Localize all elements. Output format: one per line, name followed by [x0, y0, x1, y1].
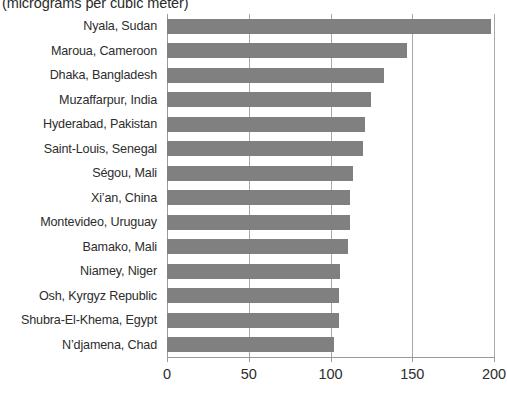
category-label: Dhaka, Bangladesh	[50, 68, 157, 82]
bar[interactable]	[167, 43, 407, 58]
category-label: Saint-Louis, Senegal	[44, 142, 157, 156]
category-label-row: Muzaffarpur, India	[0, 88, 162, 113]
bar[interactable]	[167, 92, 371, 107]
category-label: Montevideo, Uruguay	[40, 215, 157, 229]
category-label-row: Nyala, Sudan	[0, 14, 162, 39]
tick-label-100: 100	[318, 366, 342, 382]
bar-rows	[167, 14, 494, 357]
tick-mark-200	[494, 357, 495, 362]
category-label: Ségou, Mali	[92, 166, 157, 180]
tick-label-50: 50	[241, 366, 257, 382]
bar-row[interactable]	[167, 137, 494, 162]
tick-mark-100	[331, 357, 332, 362]
category-label: Maroua, Cameroon	[51, 44, 157, 58]
category-label-row: Shubra-El-Khema, Egypt	[0, 308, 162, 333]
bar[interactable]	[167, 288, 339, 303]
bar-row[interactable]	[167, 284, 494, 309]
bar-row[interactable]	[167, 161, 494, 186]
category-label-row: Osh, Kyrgyz Republic	[0, 284, 162, 309]
bar-row[interactable]	[167, 308, 494, 333]
bar-row[interactable]	[167, 88, 494, 113]
category-label-row: Bamako, Mali	[0, 235, 162, 260]
chart-page: (micrograms per cubic meter) Nyala, Suda…	[0, 0, 507, 401]
category-label-row: Montevideo, Uruguay	[0, 210, 162, 235]
tick-label-150: 150	[400, 366, 424, 382]
bar[interactable]	[167, 337, 334, 352]
bar[interactable]	[167, 19, 491, 34]
bar[interactable]	[167, 166, 353, 181]
chart-title: (micrograms per cubic meter)	[2, 0, 189, 11]
category-label: Nyala, Sudan	[83, 19, 157, 33]
category-label-row: Maroua, Cameroon	[0, 39, 162, 64]
bar-row[interactable]	[167, 39, 494, 64]
category-label-row: Ségou, Mali	[0, 161, 162, 186]
gridline-200	[494, 14, 495, 357]
category-label-row: Xi’an, China	[0, 186, 162, 211]
category-label: Hyderabad, Pakistan	[43, 117, 157, 131]
bar[interactable]	[167, 264, 340, 279]
category-label: Muzaffarpur, India	[59, 93, 157, 107]
category-label: N’djamena, Chad	[62, 338, 157, 352]
category-label-row: Saint-Louis, Senegal	[0, 137, 162, 162]
plot-area	[167, 14, 494, 357]
bar-row[interactable]	[167, 186, 494, 211]
bar-row[interactable]	[167, 63, 494, 88]
bar-row[interactable]	[167, 333, 494, 358]
bar[interactable]	[167, 215, 350, 230]
tick-label-0: 0	[163, 366, 171, 382]
category-label: Osh, Kyrgyz Republic	[39, 289, 157, 303]
bar[interactable]	[167, 141, 363, 156]
category-label-row: Niamey, Niger	[0, 259, 162, 284]
category-label-row: Hyderabad, Pakistan	[0, 112, 162, 137]
bar-row[interactable]	[167, 210, 494, 235]
bar[interactable]	[167, 117, 365, 132]
bar-row[interactable]	[167, 14, 494, 39]
category-label: Niamey, Niger	[80, 264, 157, 278]
bar-row[interactable]	[167, 259, 494, 284]
category-label: Shubra-El-Khema, Egypt	[21, 313, 157, 327]
bar[interactable]	[167, 239, 348, 254]
tick-mark-150	[412, 357, 413, 362]
category-label-row: N’djamena, Chad	[0, 333, 162, 358]
category-label: Bamako, Mali	[83, 240, 158, 254]
tick-mark-50	[249, 357, 250, 362]
category-label: Xi’an, China	[91, 191, 157, 205]
bar[interactable]	[167, 68, 384, 83]
bar[interactable]	[167, 190, 350, 205]
tick-label-200: 200	[482, 366, 506, 382]
category-label-row: Dhaka, Bangladesh	[0, 63, 162, 88]
category-axis-labels: Nyala, SudanMaroua, CameroonDhaka, Bangl…	[0, 14, 162, 357]
bar-row[interactable]	[167, 112, 494, 137]
tick-mark-0	[167, 357, 168, 362]
bar-row[interactable]	[167, 235, 494, 260]
bar[interactable]	[167, 313, 339, 328]
